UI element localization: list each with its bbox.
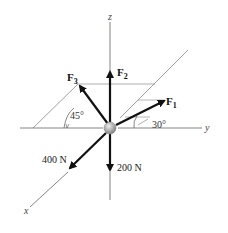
force-200n-label: 200 N [117,162,142,173]
force-f3-vector [80,86,108,124]
angle-arc-30 [134,116,137,128]
f2-label: F2 [117,66,128,81]
angle-45-label: 45° [70,110,84,121]
angle-30-label: 30° [152,119,166,130]
f3-label: F3 [67,71,78,86]
force-400n-label: 400 N [42,154,67,165]
x-axis-label: x [23,205,29,216]
force-diagram: z y x 45° 30° F2 F3 F1 400 N 200 N [0,0,228,233]
y-axis-label: y [204,122,210,133]
particle-ball [104,122,116,134]
z-axis-label: z [107,11,112,22]
x-axis [30,172,68,207]
force-400n-vector [70,133,106,168]
f1-label: F1 [166,95,177,110]
plane-left-edge [33,84,78,128]
